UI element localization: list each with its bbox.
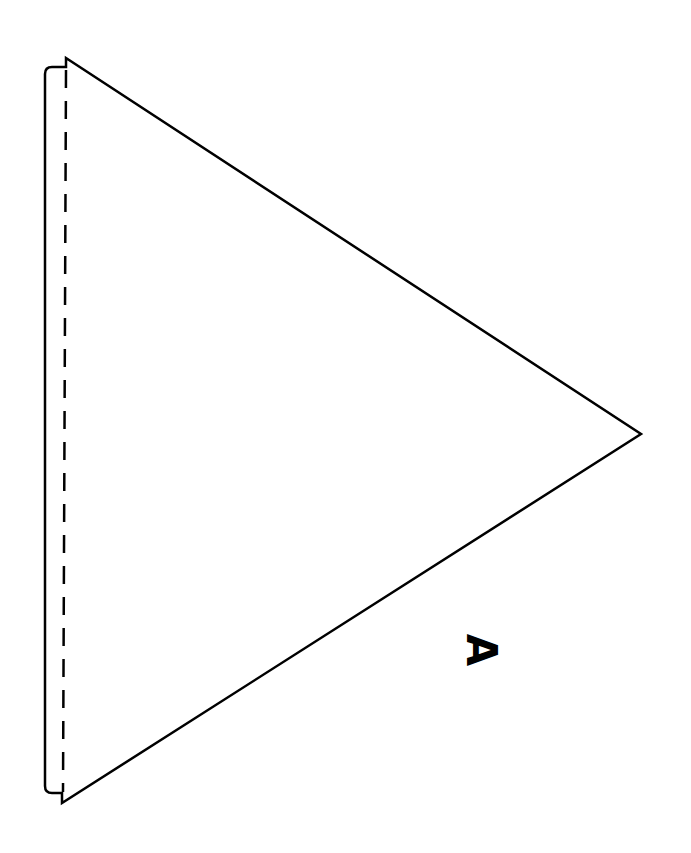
fold-line-dashed (63, 70, 66, 792)
pennant-template (0, 0, 691, 853)
pennant-letter-label: A (459, 625, 503, 675)
pennant-outline (45, 58, 641, 803)
